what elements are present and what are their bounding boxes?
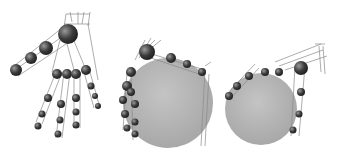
robot-hand-grasp-sphere-image	[105, 0, 220, 157]
panel-grasp-side	[105, 0, 220, 157]
robot-hand-open-image	[0, 0, 113, 157]
panel-open-hand	[0, 0, 113, 157]
panel-grasp-front	[215, 0, 339, 157]
robot-hand-grasp-sphere-alt-image	[215, 0, 339, 157]
